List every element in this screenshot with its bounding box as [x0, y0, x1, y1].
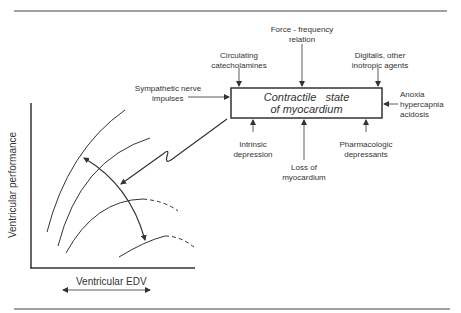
label-force-frequency: Force - frequency relation	[266, 25, 338, 45]
curve-1	[47, 110, 125, 232]
curve-4	[119, 236, 165, 257]
label-line: Sympathetic nerve	[130, 84, 206, 94]
wavy-arrow	[121, 119, 227, 184]
curve-4-dashed	[165, 236, 194, 247]
box-line-2: of myocardium	[270, 103, 342, 115]
label-line: impulses	[130, 94, 206, 104]
curve-3-dashed	[143, 199, 178, 211]
label-line: myocardium	[276, 173, 332, 183]
label-line: Circulating	[206, 51, 272, 61]
label-loss-of-myocardium: Loss of myocardium	[276, 163, 332, 183]
label-line: Pharmacologic	[334, 140, 398, 150]
label-line: catecholamines	[206, 61, 272, 71]
contractile-state-label: Contractile state of myocardium	[231, 88, 382, 118]
x-axis-label: Ventricular EDV	[76, 276, 147, 287]
label-digitalis: Digitalis, other inotropic agents	[346, 51, 414, 71]
label-anoxia: Anoxia hypercapnia acidosis	[400, 90, 458, 120]
label-catecholamines: Circulating catecholamines	[206, 51, 272, 71]
label-line: hypercapnia	[400, 100, 458, 110]
box-line-1: Contractile state	[264, 91, 350, 103]
label-line: Intrinsic	[226, 140, 280, 150]
label-line: Digitalis, other	[346, 51, 414, 61]
label-line: inotropic agents	[346, 61, 414, 71]
curve-2	[58, 138, 150, 246]
label-line: acidosis	[400, 110, 458, 120]
y-axis-label: Ventricular performance	[7, 132, 18, 238]
label-pharmacologic: Pharmacologic depressants	[334, 140, 398, 160]
label-line: depression	[226, 150, 280, 160]
label-sympathetic: Sympathetic nerve impulses	[130, 84, 206, 104]
label-line: Anoxia	[400, 90, 458, 100]
label-line: Force - frequency	[266, 25, 338, 35]
label-intrinsic: Intrinsic depression	[226, 140, 280, 160]
label-line: depressants	[334, 150, 398, 160]
label-line: Loss of	[276, 163, 332, 173]
label-line: relation	[266, 35, 338, 45]
